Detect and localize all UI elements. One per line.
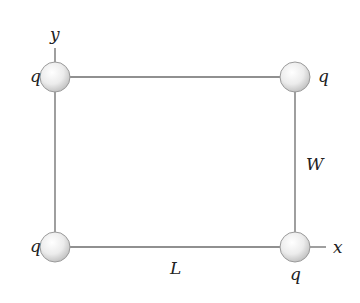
rectangle-charge-diagram: y x q q q q W L: [0, 0, 360, 303]
charge-top-right: [280, 62, 310, 92]
charge-label-bottom-right: q: [290, 264, 301, 284]
width-label: W: [306, 154, 325, 174]
charge-top-left: [40, 62, 70, 92]
charge-label-top-left: q: [30, 66, 41, 86]
charge-label-bottom-left: q: [30, 236, 41, 256]
x-axis-label: x: [333, 237, 343, 257]
y-axis-label: y: [49, 24, 60, 44]
charge-bottom-left: [40, 232, 70, 262]
length-label: L: [169, 258, 181, 278]
charge-label-top-right: q: [318, 66, 329, 86]
charge-bottom-right: [280, 232, 310, 262]
